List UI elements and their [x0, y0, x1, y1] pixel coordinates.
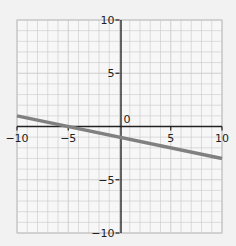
x-tick-label: 10 [215, 132, 229, 145]
x-tick-label: 5 [167, 132, 174, 145]
origin-label: 0 [124, 113, 131, 126]
y-tick-label: 5 [108, 67, 115, 80]
y-tick-label: 10 [101, 14, 115, 27]
y-tick-label: −5 [98, 174, 114, 187]
y-tick-label: −10 [91, 227, 114, 240]
x-tick-label: −10 [5, 132, 28, 145]
coordinate-plane: −10−5510105−5−100 [0, 0, 236, 246]
x-tick-label: −5 [60, 132, 76, 145]
